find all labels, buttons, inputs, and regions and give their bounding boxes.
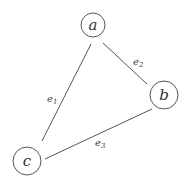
edge-e3 bbox=[45, 109, 152, 159]
nodes-group: abc bbox=[13, 13, 178, 175]
graph-svg: e1e2e3 abc bbox=[0, 0, 189, 182]
edge-label-e1: e1 bbox=[47, 93, 57, 106]
node-label-b: b bbox=[159, 86, 169, 104]
node-c: c bbox=[13, 147, 41, 175]
edges-group: e1e2e3 bbox=[42, 43, 152, 159]
edge-label-e3: e3 bbox=[95, 137, 106, 150]
node-label-c: c bbox=[23, 152, 32, 170]
node-label-a: a bbox=[89, 16, 98, 34]
node-b: b bbox=[150, 81, 178, 109]
graph-diagram: e1e2e3 abc bbox=[0, 0, 189, 182]
node-a: a bbox=[81, 13, 105, 37]
edge-label-e2: e2 bbox=[133, 56, 144, 69]
